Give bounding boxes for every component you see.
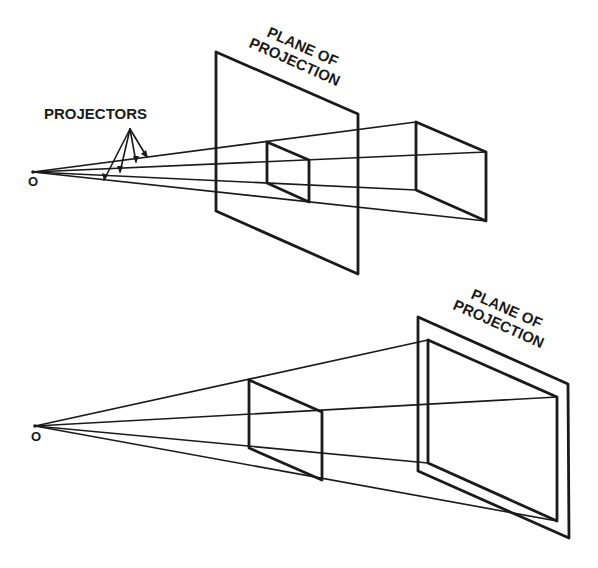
projectors-label: PROJECTORS — [44, 105, 147, 122]
arrowhead-icon — [117, 166, 123, 173]
bottom-projected-image — [428, 340, 557, 521]
top-projector-lines — [33, 122, 486, 221]
bottom-projector-lines — [35, 340, 557, 521]
bottom-origin-label: O — [31, 429, 41, 444]
bottom-object — [249, 380, 322, 480]
top-plane-label: PLANE OF PROJECTION — [247, 18, 350, 89]
bottom-diagram: O PLANE OF PROJECTION — [31, 280, 569, 538]
bottom-origin-point — [33, 424, 37, 428]
bottom-plane-of-projection — [418, 317, 569, 538]
top-object — [416, 122, 486, 221]
top-projected-image — [267, 142, 309, 202]
projection-diagram: O PROJECTORS PLANE OF PROJECTION O PLANE… — [0, 0, 598, 568]
projector-arrows — [102, 129, 148, 181]
bottom-plane-label: PLANE OF PROJECTION — [451, 280, 554, 351]
top-origin-label: O — [28, 174, 38, 189]
top-diagram: O PROJECTORS PLANE OF PROJECTION — [28, 18, 486, 274]
